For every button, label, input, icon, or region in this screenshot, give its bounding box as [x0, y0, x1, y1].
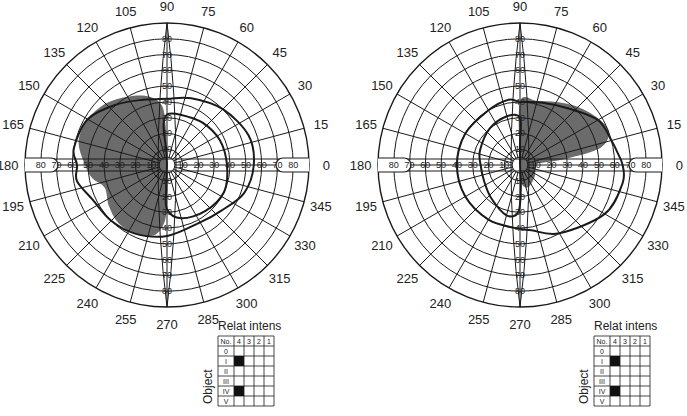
eccentricity-label: 70 [625, 160, 635, 170]
angle-label-0: 0 [676, 158, 683, 173]
angle-label-15: 15 [314, 117, 328, 132]
eccentricity-label: 60 [515, 65, 525, 75]
angle-label-240: 240 [429, 296, 451, 311]
legend-column-header: 1 [267, 338, 271, 345]
eccentricity-label: 80 [162, 34, 172, 44]
eccentricity-label: 10 [178, 160, 188, 170]
angle-label-75: 75 [201, 4, 215, 19]
angle-label-180: 180 [350, 158, 372, 173]
filled-cell [234, 356, 244, 366]
eccentricity-label: 20 [162, 128, 172, 138]
eccentricity-label: 20 [162, 192, 172, 202]
angle-label-90: 90 [513, 0, 527, 14]
angle-label-300: 300 [236, 296, 258, 311]
eccentricity-label: 80 [288, 160, 298, 170]
eccentricity-label: 70 [162, 270, 172, 280]
eccentricity-label: 30 [209, 160, 219, 170]
eccentricity-label: 80 [36, 160, 46, 170]
meridian-line [449, 172, 516, 288]
eccentricity-label: 30 [468, 160, 478, 170]
eccentricity-label: 20 [130, 160, 140, 170]
angle-label-75: 75 [554, 4, 568, 19]
eccentricity-label: 20 [515, 192, 525, 202]
eccentricity-label: 30 [115, 160, 125, 170]
left-field-chart: 1010101020202020303030304040404050505050… [0, 0, 332, 332]
eccentricity-label: 60 [67, 160, 77, 170]
meridian-line [420, 171, 515, 266]
legend-row-label: 0 [600, 348, 604, 355]
eccentricity-label: 60 [420, 160, 430, 170]
angle-label-15: 15 [667, 117, 681, 132]
angle-label-0: 0 [323, 158, 330, 173]
angle-label-285: 285 [550, 312, 572, 327]
eccentricity-label: 40 [162, 97, 172, 107]
eccentricity-label: 10 [499, 160, 509, 170]
eccentricity-label: 50 [162, 81, 172, 91]
legend-column-header: No. [221, 338, 232, 345]
eccentricity-label: 10 [515, 144, 525, 154]
eccentricity-label: 30 [162, 207, 172, 217]
angle-label-195: 195 [355, 199, 377, 214]
eccentricity-label: 40 [578, 160, 588, 170]
right-field-chart: 1010101020202020303030304040404050505050… [350, 0, 685, 332]
angle-label-315: 315 [622, 271, 644, 286]
eccentricity-label: 60 [162, 65, 172, 75]
relative-intensity-legend: Relat intensNo.43210IIIIIIIVVObject [201, 319, 281, 406]
angle-label-195: 195 [2, 199, 24, 214]
meridian-line [527, 169, 643, 236]
legend-row-label: III [599, 378, 605, 385]
angle-label-270: 270 [509, 317, 531, 332]
angle-label-210: 210 [371, 238, 393, 253]
angle-label-135: 135 [396, 45, 418, 60]
angle-label-330: 330 [294, 238, 316, 253]
angle-label-60: 60 [592, 20, 606, 35]
eccentricity-label: 30 [515, 113, 525, 123]
angle-label-150: 150 [18, 78, 40, 93]
eccentricity-label: 60 [610, 160, 620, 170]
meridian-line [420, 65, 515, 160]
eccentricity-label: 50 [83, 160, 93, 170]
angle-label-135: 135 [43, 45, 65, 60]
eccentricity-label: 30 [562, 160, 572, 170]
legend-row-label: 0 [224, 348, 228, 355]
angle-label-255: 255 [115, 312, 137, 327]
eccentricity-label: 40 [452, 160, 462, 170]
perimetry-figure: 1010101020202020303030304040404050505050… [0, 0, 687, 416]
legend-axis-label: Object [201, 369, 215, 404]
legend-column-header: 4 [613, 338, 617, 345]
eccentricity-label: 40 [225, 160, 235, 170]
eccentricity-label: 80 [641, 160, 651, 170]
angle-label-225: 225 [43, 271, 65, 286]
eccentricity-label: 50 [515, 239, 525, 249]
meridian-line [397, 94, 513, 161]
angle-label-90: 90 [160, 0, 174, 14]
eccentricity-label: 20 [194, 160, 204, 170]
meridian-line [174, 94, 290, 161]
eccentricity-label: 40 [515, 97, 525, 107]
relative-intensity-legend: Relat intensNo.43210IIIIIIIVVObject [577, 319, 657, 406]
eccentricity-label: 20 [515, 128, 525, 138]
legend-column-header: 2 [633, 338, 637, 345]
legend-row-label: I [601, 358, 603, 365]
eccentricity-label: 50 [241, 160, 251, 170]
legend-row-label: V [600, 398, 605, 405]
angle-label-315: 315 [269, 271, 291, 286]
legend-row-label: I [225, 358, 227, 365]
eccentricity-label: 70 [515, 50, 525, 60]
legend-column-header: 4 [237, 338, 241, 345]
legend-column-header: 3 [247, 338, 251, 345]
angle-label-60: 60 [239, 20, 253, 35]
angle-label-120: 120 [429, 20, 451, 35]
eccentricity-label: 70 [52, 160, 62, 170]
eccentricity-label: 10 [531, 160, 541, 170]
filled-cell [610, 386, 620, 396]
angle-label-45: 45 [272, 45, 286, 60]
angle-label-30: 30 [298, 78, 312, 93]
angle-label-300: 300 [589, 296, 611, 311]
angle-label-45: 45 [625, 45, 639, 60]
legend-row-label: III [223, 378, 229, 385]
eccentricity-label: 50 [515, 81, 525, 91]
angle-label-345: 345 [310, 199, 332, 214]
angle-label-150: 150 [371, 78, 393, 93]
angle-label-165: 165 [2, 117, 24, 132]
